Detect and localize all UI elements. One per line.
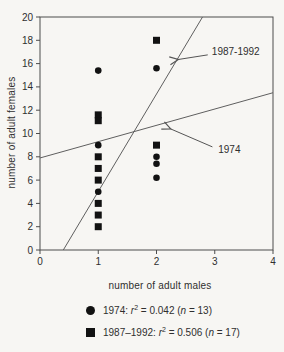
y-tick-label: 14 bbox=[22, 81, 34, 92]
y-tick-label: 0 bbox=[27, 245, 33, 256]
circle-marker-icon bbox=[86, 306, 95, 315]
data-point-1987-1992 bbox=[153, 142, 160, 149]
data-point-1974 bbox=[95, 142, 102, 149]
y-axis-title: number of adult females bbox=[6, 53, 17, 213]
scatter-plot: 0123402468101214161820 1987-19921974 bbox=[0, 0, 284, 300]
y-tick-label: 10 bbox=[22, 128, 34, 139]
data-point-1987-1992 bbox=[153, 37, 160, 44]
data-point-1987-1992 bbox=[95, 165, 102, 172]
x-tick-label: 2 bbox=[154, 256, 160, 267]
data-point-1987-1992 bbox=[95, 153, 102, 160]
data-point-1987-1992 bbox=[95, 223, 102, 230]
data-point-1974 bbox=[153, 160, 160, 167]
y-tick-label: 20 bbox=[22, 12, 34, 23]
legend-item-1974: 1974: r2 = 0.042 (n = 13) bbox=[86, 304, 212, 316]
data-point-1987-1992 bbox=[95, 212, 102, 219]
legend-r2-value: = 0.506 ( bbox=[166, 327, 209, 338]
data-point-1974 bbox=[153, 65, 160, 72]
y-tick-label: 2 bbox=[27, 221, 33, 232]
data-point-1974 bbox=[95, 188, 102, 195]
x-tick-label: 0 bbox=[37, 256, 43, 267]
legend-n-value: = 17) bbox=[214, 327, 240, 338]
data-point-1987-1992 bbox=[95, 200, 102, 207]
legend-label-1974: 1974: r2 = 0.042 (n = 13) bbox=[103, 305, 212, 316]
data-point-1974 bbox=[153, 174, 160, 181]
x-tick-label: 3 bbox=[212, 256, 218, 267]
y-tick-label: 18 bbox=[22, 35, 34, 46]
data-point-1974 bbox=[153, 154, 160, 161]
annotation-label-1987-1992: 1987-1992 bbox=[212, 46, 260, 57]
legend-series-name: 1974: bbox=[103, 305, 131, 316]
annotation-arrow-1987-1992 bbox=[178, 55, 208, 60]
legend-series-name: 1987–1992: bbox=[103, 327, 159, 338]
data-point-1974 bbox=[95, 67, 102, 74]
square-marker-icon bbox=[86, 328, 95, 337]
y-tick-label: 6 bbox=[27, 175, 33, 186]
legend-r2-value: = 0.042 ( bbox=[138, 305, 181, 316]
x-axis-title: number of adult males bbox=[40, 280, 280, 291]
legend-n-value: = 13) bbox=[186, 305, 212, 316]
y-tick-label: 16 bbox=[22, 58, 34, 69]
data-point-1987-1992 bbox=[95, 117, 102, 124]
y-tick-label: 8 bbox=[27, 151, 33, 162]
legend-label-1987-1992: 1987–1992: r2 = 0.506 (n = 17) bbox=[103, 327, 240, 338]
annotation-arrow-1974 bbox=[170, 129, 212, 147]
annotation-label-1974: 1974 bbox=[218, 144, 241, 155]
data-point-1987-1992 bbox=[95, 177, 102, 184]
x-tick-label: 1 bbox=[95, 256, 101, 267]
legend-item-1987-1992: 1987–1992: r2 = 0.506 (n = 17) bbox=[86, 326, 240, 338]
scatter-figure: 0123402468101214161820 1987-19921974 num… bbox=[0, 0, 284, 352]
y-tick-label: 12 bbox=[22, 105, 34, 116]
y-tick-label: 4 bbox=[27, 198, 33, 209]
x-tick-label: 4 bbox=[270, 256, 276, 267]
